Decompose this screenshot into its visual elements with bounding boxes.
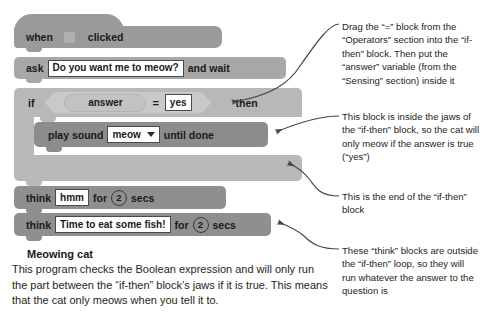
block-if-then[interactable]: if answer = yes then [14,88,302,117]
secs-label-1: secs [127,192,158,204]
clicked-label: clicked [84,31,128,43]
if-block-left-arm [14,117,34,155]
think-seconds-input-2[interactable]: 2 [193,217,209,233]
if-label: if [24,97,38,109]
think-text-input-1[interactable]: hmm [55,189,89,206]
annotation-inside-jaws: This block is inside the jaws of the “if… [342,110,480,164]
think-label-2: think [22,219,55,231]
sound-dropdown[interactable]: meow [107,126,159,143]
think-text-input-2[interactable]: Time to eat some fish! [55,216,170,233]
block-when-flag-clicked[interactable]: when clicked [14,26,222,48]
and-wait-label: and wait [184,62,234,74]
scratch-block-stack: when clicked ask Do you want me to meow?… [0,0,340,245]
annotation-think-blocks: These “think” blocks are outside the “if… [342,244,480,298]
for-label-1: for [89,192,111,204]
caption-title-text: Meowing cat [27,248,93,260]
figure-root: when clicked ask Do you want me to meow?… [0,0,482,333]
hat-block-notch [26,47,42,52]
chevron-down-icon [147,132,155,137]
annotation-equals-block: Drag the “=” block from the “Operators” … [342,20,480,87]
block-think-fish[interactable]: think Time to eat some fish! for 2 secs [14,213,271,236]
then-label: then [232,97,262,109]
play-sound-notch [46,147,62,152]
play-sound-label: play sound [44,129,107,141]
ask-block-notch [26,78,42,83]
ask-question-input[interactable]: Do you want me to meow? [48,60,184,77]
think-seconds-input-1[interactable]: 2 [111,190,127,206]
until-done-label: until done [160,129,218,141]
caption: Meowing cat This program checks the Bool… [12,248,330,309]
when-label: when [22,31,57,43]
block-play-sound-until-done[interactable]: play sound meow until done [34,122,268,147]
block-think-hmm[interactable]: think hmm for 2 secs [14,186,226,209]
caption-title-row: Meowing cat [12,248,330,260]
if-block-bottom-jaw[interactable] [14,155,302,181]
block-ask-and-wait[interactable]: ask Do you want me to meow? and wait [14,57,286,79]
green-flag-icon [64,32,75,43]
if-block-inner-notch [40,117,56,122]
think-block-2-notch [26,236,42,241]
think-label-1: think [22,192,55,204]
annotation-end-of-block: This is the end of the “if-then” block [342,190,480,217]
caption-body-text: This program checks the Boolean expressi… [12,262,330,309]
ask-label: ask [22,62,48,74]
answer-reporter-variable[interactable]: answer [64,94,146,112]
sound-dropdown-value: meow [112,129,140,140]
equals-right-input[interactable]: yes [165,94,192,111]
equals-sign-label: = [146,97,164,109]
boolean-equals-operator[interactable]: answer = yes [44,92,211,113]
triangle-icon [12,250,22,258]
secs-label-2: secs [209,219,240,231]
for-label-2: for [171,219,193,231]
